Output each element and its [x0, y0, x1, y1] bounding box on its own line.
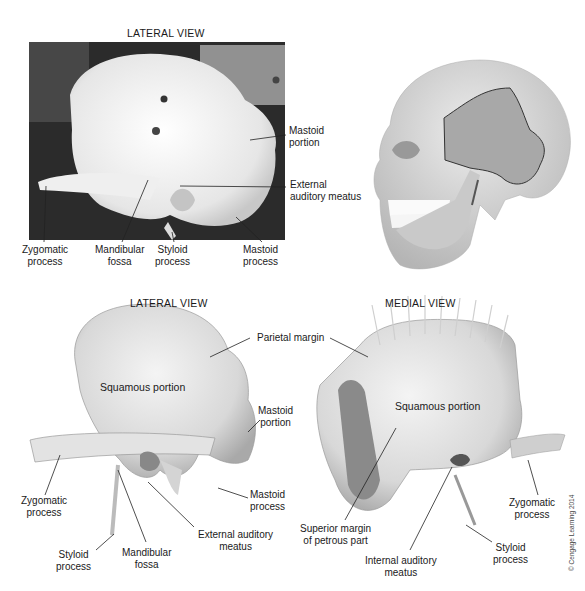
- skull-illustration: [374, 60, 570, 269]
- label-mandibular-fossa: Mandibular fossa: [95, 244, 144, 268]
- label-external-auditory-meatus: External auditory meatus: [290, 179, 361, 203]
- label-zygomatic-process: Zygomatic process: [21, 495, 67, 519]
- photo-lateral-view: [29, 42, 285, 240]
- temporal-bone-illustrations: [0, 0, 585, 591]
- label-styloid-process: Styloid process: [155, 244, 190, 268]
- label-zygomatic-process: Zygomatic process: [509, 497, 555, 521]
- lateral-view-title: LATERAL VIEW: [130, 297, 208, 309]
- copyright-notice: © Cengage Learning 2014: [568, 495, 575, 571]
- medial-view-title: MEDIAL VIEW: [385, 297, 456, 309]
- label-parietal-margin: Parietal margin: [257, 332, 324, 344]
- label-mandibular-fossa: Mandibular fossa: [122, 547, 171, 571]
- label-mastoid-process: Mastoid process: [243, 244, 278, 268]
- label-squamous-portion: Squamous portion: [100, 381, 185, 393]
- label-internal-auditory-meatus: Internal auditory meatus: [365, 555, 437, 579]
- label-external-auditory-meatus: External auditory meatus: [198, 529, 273, 553]
- label-mastoid-portion: Mastoid portion: [289, 125, 324, 149]
- label-styloid-process: Styloid process: [493, 542, 528, 566]
- label-superior-margin-petrous: Superior margin of petrous part: [300, 523, 371, 547]
- label-squamous-portion: Squamous portion: [395, 400, 480, 412]
- label-mastoid-portion: Mastoid portion: [258, 405, 293, 429]
- label-styloid-process: Styloid process: [56, 549, 91, 573]
- photo-panel-title: LATERAL VIEW: [127, 27, 205, 39]
- label-mastoid-process: Mastoid process: [250, 489, 285, 513]
- label-zygomatic-process: Zygomatic process: [22, 244, 68, 268]
